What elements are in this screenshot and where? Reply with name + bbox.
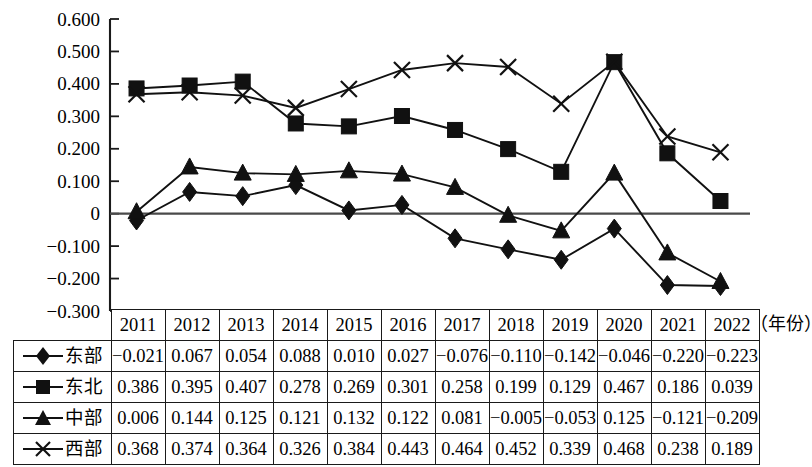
year-column-header: 2017 [435,310,489,341]
table-cell: 0.054 [219,341,273,372]
data-point-marker [235,74,250,89]
data-point-marker [448,122,463,137]
table-cell: 0.407 [219,372,273,403]
data-point-marker [659,128,675,144]
cross-marker-icon [22,440,64,458]
table-cell: 0.301 [381,372,435,403]
series-line [137,62,721,153]
table-cell: −0.121 [651,403,705,434]
table-cell: 0.258 [435,372,489,403]
data-point-marker [183,182,197,201]
table-cell: −0.046 [597,341,651,372]
year-column-header: 2015 [327,310,381,341]
data-point-marker [501,240,515,259]
year-column-header: 2014 [273,310,327,341]
year-column-header: 2020 [597,310,651,341]
table-cell: 0.122 [381,403,435,434]
axis-lines [110,19,750,311]
year-column-header: 2016 [381,310,435,341]
table-cell: 0.006 [111,403,165,434]
table-cell: 0.121 [273,403,327,434]
y-tick-label: 0.100 [57,171,100,192]
data-point-marker [660,146,675,161]
year-column-header: 2021 [651,310,705,341]
year-column-header: 2018 [489,310,543,341]
table-cell: 0.468 [597,434,651,465]
data-point-marker [553,96,569,112]
table-row: 东北0.3860.3950.4070.2780.2690.3010.2580.1… [14,372,760,403]
triangle-marker-icon [22,409,64,427]
data-point-marker [236,187,250,206]
table-cell: 0.374 [165,434,219,465]
data-point-marker [288,100,304,116]
table-cell: 0.027 [381,341,435,372]
data-point-marker [342,201,356,220]
y-tick-label: −0.100 [47,236,100,257]
table-cell: −0.021 [111,341,165,372]
table-cell: 0.278 [273,372,327,403]
table-cell: 0.368 [111,434,165,465]
table-cell: −0.053 [543,403,597,434]
y-tick-label: 0.200 [57,138,100,159]
table-cell: −0.209 [705,403,759,434]
data-point-marker [341,119,356,134]
data-point-marker [448,229,462,248]
table-row: 东部−0.0210.0670.0540.0880.0100.027−0.076−… [14,341,760,372]
data-point-marker [554,164,569,179]
data-point-marker [394,109,409,124]
table-cell: 0.443 [381,434,435,465]
data-point-marker [607,219,621,238]
data-point-marker [128,203,145,219]
table-cell: 0.395 [165,372,219,403]
data-point-marker [712,272,729,288]
table-cell: 0.364 [219,434,273,465]
series-triangle [128,158,729,289]
table-header-row: 2011201220132014201520162017201820192020… [14,310,760,341]
table-cell: 0.464 [435,434,489,465]
table-cell: −0.110 [489,341,543,372]
line-chart: 0.6000.5000.4000.3000.2000.1000−0.100−0.… [0,0,812,320]
data-point-marker [659,244,676,260]
year-column-header: 2013 [219,310,273,341]
year-column-header: 2019 [543,310,597,341]
series-diamond [130,176,728,296]
data-point-marker [660,276,674,295]
table-cell: 0.186 [651,372,705,403]
square-marker-icon [22,378,64,396]
table-cell: 0.339 [543,434,597,465]
x-axis-label: （年份） [750,309,812,339]
table-row: 西部0.3680.3740.3640.3260.3840.4430.4640.4… [14,434,760,465]
table-cell: 0.132 [327,403,381,434]
table-cell: −0.223 [705,341,759,372]
table-cell: 0.067 [165,341,219,372]
data-point-marker [501,142,516,157]
data-point-marker [340,162,357,178]
table-cell: −0.142 [543,341,597,372]
legend-cell-东北: 东北 [14,372,112,403]
y-tick-label: 0 [91,203,101,224]
data-point-marker [181,158,198,174]
table-row: 中部0.0060.1440.1250.1210.1320.1220.081−0.… [14,403,760,434]
series-line [137,167,721,282]
table-cell: −0.076 [435,341,489,372]
data-point-marker [713,194,728,209]
year-column-header: 2012 [165,310,219,341]
table-cell: 0.088 [273,341,327,372]
legend-label: 东北 [65,372,103,402]
table-cell: −0.220 [651,341,705,372]
table-corner-cell [14,310,112,341]
table-cell: 0.452 [489,434,543,465]
series-square [129,55,728,209]
table-cell: 0.386 [111,372,165,403]
table-cell: 0.238 [651,434,705,465]
data-point-marker [554,250,568,269]
table-cell: 0.467 [597,372,651,403]
table-cell: 0.384 [327,434,381,465]
y-tick-label: −0.200 [47,268,100,289]
y-tick-label: 0.400 [57,73,100,94]
table-cell: 0.129 [543,372,597,403]
table-cell: 0.081 [435,403,489,434]
table-cell: 0.189 [705,434,759,465]
table-cell: 0.125 [219,403,273,434]
year-column-header: 2011 [111,310,165,341]
